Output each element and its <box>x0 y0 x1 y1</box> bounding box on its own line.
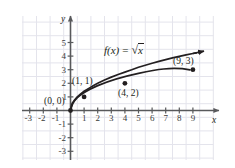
y-tick-label-5: 5 <box>62 39 67 48</box>
point-label-0-0: (0, 0) <box>44 97 65 107</box>
point-0-0 <box>68 108 73 113</box>
y-tick-label--3: -3 <box>59 147 67 156</box>
point-label-4-2: (4, 2) <box>118 89 139 99</box>
y-tick-label-4: 4 <box>62 52 67 61</box>
point-label-9-3: (9, 3) <box>173 57 194 67</box>
y-tick-label-3: 3 <box>62 66 67 75</box>
x-tick-label-6: 6 <box>150 114 155 123</box>
y-tick-label--2: -2 <box>59 134 67 143</box>
x-tick-label--2: -2 <box>38 114 46 123</box>
radicand: x <box>138 43 144 56</box>
y-tick-label--1: -1 <box>59 120 67 129</box>
x-tick-label-5: 5 <box>136 114 141 123</box>
square-root-graph-figure: -3 -2 -1 1 2 3 4 5 6 7 8 9 5 4 3 2 1 -1 … <box>0 0 235 168</box>
x-tick-label-9: 9 <box>191 114 196 123</box>
y-tick-label-2: 2 <box>62 79 67 88</box>
point-label-1-1: (1, 1) <box>72 77 93 87</box>
point-1-1 <box>82 95 87 100</box>
function-lhs: f(x) <box>104 44 119 56</box>
point-4-2 <box>123 81 128 86</box>
point-9-3 <box>191 67 196 72</box>
function-label: f(x)=√x <box>104 44 144 56</box>
x-tick-label-7: 7 <box>164 114 169 123</box>
x-tick-label-4: 4 <box>123 114 128 123</box>
plot-canvas <box>0 0 235 168</box>
x-tick-label-1: 1 <box>82 114 87 123</box>
x-tick-label-3: 3 <box>109 114 114 123</box>
function-equals: = <box>119 44 131 56</box>
curve-end-arrow <box>193 51 204 53</box>
x-tick-label--3: -3 <box>25 114 33 123</box>
x-axis-name: x <box>212 116 216 126</box>
y-axis-name: y <box>61 15 65 25</box>
x-tick-label-2: 2 <box>96 114 101 123</box>
x-tick-label-8: 8 <box>177 114 182 123</box>
